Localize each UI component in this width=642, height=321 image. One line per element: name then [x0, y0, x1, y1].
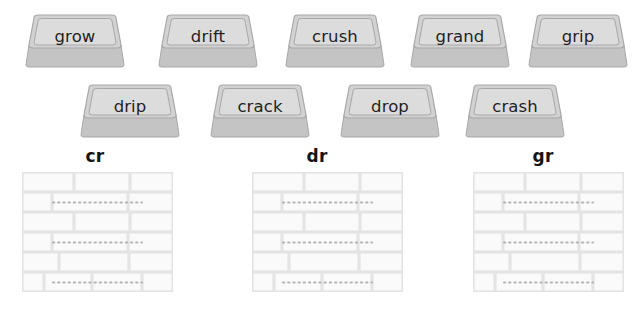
tile-inner-panel [419, 19, 501, 46]
blend-heading-gr: gr [458, 146, 628, 166]
wall-brick [75, 213, 129, 231]
tile-inner-panel [537, 19, 619, 46]
wall-brick [582, 173, 623, 191]
brick-wall-dr [252, 172, 403, 292]
wall-brick [253, 213, 303, 231]
wall-brick [474, 273, 494, 291]
wall-brick [361, 213, 402, 231]
wall-brick [582, 213, 623, 231]
wall-brick [474, 173, 524, 191]
tile-inner-panel [474, 89, 556, 116]
wall-brick [143, 273, 172, 291]
word-tile-group: growdriftcrushgrandgripdripcrackdropcras… [0, 0, 642, 145]
wall-brick [75, 173, 129, 191]
wall-brick [290, 253, 358, 271]
wall-brick [131, 213, 172, 231]
word-tile-shape [80, 84, 180, 140]
wall-brick [23, 193, 51, 211]
blend-heading-cr: cr [10, 146, 180, 166]
wall-brick [474, 193, 502, 211]
wall-brick [360, 253, 402, 271]
word-tile-crash[interactable]: crash [465, 84, 565, 140]
word-tile-drip[interactable]: drip [80, 84, 180, 140]
tile-inner-panel [167, 19, 249, 46]
wall-brick [253, 233, 281, 251]
wall-brick [23, 273, 43, 291]
wall-brick [594, 273, 623, 291]
wall-brick [511, 253, 579, 271]
wall-brick [253, 253, 288, 271]
wall-brick [23, 173, 73, 191]
tile-inner-panel [219, 89, 301, 116]
wall-brick [305, 213, 359, 231]
tile-inner-panel [294, 19, 376, 46]
tile-inner-panel [349, 89, 431, 116]
brick-wall-cr [22, 172, 173, 292]
wall-brick [253, 193, 281, 211]
word-tile-shape [528, 14, 628, 70]
wall-brick [526, 173, 580, 191]
wall-brick [253, 173, 303, 191]
word-tile-crush[interactable]: crush [285, 14, 385, 70]
wall-brick [474, 213, 524, 231]
word-tile-shape [340, 84, 440, 140]
word-tile-shape [285, 14, 385, 70]
wall-brick [474, 233, 502, 251]
brick-wall-gr [473, 172, 624, 292]
word-tile-shape [410, 14, 510, 70]
wall-brick [526, 213, 580, 231]
word-tile-grip[interactable]: grip [528, 14, 628, 70]
wall-brick [23, 213, 73, 231]
word-tile-shape [465, 84, 565, 140]
wall-brick [373, 273, 402, 291]
word-tile-drift[interactable]: drift [158, 14, 258, 70]
word-tile-shape [158, 14, 258, 70]
wall-brick [361, 173, 402, 191]
wall-brick [305, 173, 359, 191]
word-tile-drop[interactable]: drop [340, 84, 440, 140]
wall-brick [131, 173, 172, 191]
wall-brick [581, 253, 623, 271]
word-tile-shape [210, 84, 310, 140]
word-tile-grand[interactable]: grand [410, 14, 510, 70]
wall-brick [253, 273, 273, 291]
wall-brick [23, 253, 58, 271]
wall-brick [60, 253, 128, 271]
wall-brick [23, 233, 51, 251]
word-tile-shape [25, 14, 125, 70]
word-tile-crack[interactable]: crack [210, 84, 310, 140]
wall-brick [474, 253, 509, 271]
wall-brick [130, 253, 172, 271]
tile-inner-panel [89, 89, 171, 116]
tile-inner-panel [34, 19, 116, 46]
blend-heading-dr: dr [232, 146, 402, 166]
word-tile-grow[interactable]: grow [25, 14, 125, 70]
